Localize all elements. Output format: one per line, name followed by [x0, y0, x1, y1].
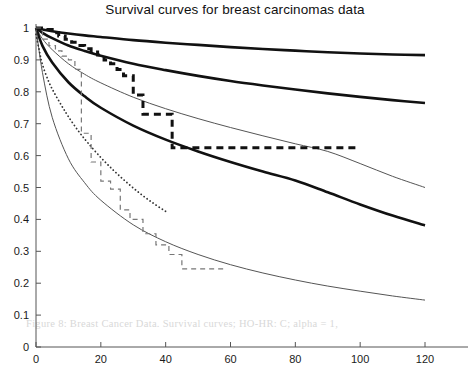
y-tick-label: 0.7: [14, 118, 29, 130]
axis-tick-labels: 00.10.20.30.40.50.60.70.80.9102040608010…: [14, 22, 434, 365]
y-tick-label: 0.8: [14, 86, 29, 98]
axes: [36, 24, 468, 347]
survival-curve-figure: Survival curves for breast carcinomas da…: [0, 0, 470, 367]
x-tick-label: 20: [95, 353, 107, 365]
x-tick-label: 60: [224, 353, 236, 365]
y-tick-label: 0.2: [14, 277, 29, 289]
model-curve-4: [36, 28, 425, 225]
plot-area: 00.10.20.30.40.50.60.70.80.9102040608010…: [0, 0, 470, 367]
data-curves: [36, 28, 425, 300]
y-tick-label: 0: [23, 341, 29, 353]
y-tick-label: 0.4: [14, 213, 29, 225]
y-tick-label: 0.3: [14, 245, 29, 257]
y-tick-label: 0.9: [14, 54, 29, 66]
x-tick-label: 40: [160, 353, 172, 365]
y-tick-label: 0.6: [14, 150, 29, 162]
y-tick-label: 0.5: [14, 182, 29, 194]
model-curve-3: [36, 28, 425, 188]
model-curve-2: [36, 28, 425, 103]
model-curve-5: [36, 28, 425, 300]
y-tick-label: 0.1: [14, 309, 29, 321]
x-tick-label: 120: [416, 353, 434, 365]
model-curve-1: [36, 28, 425, 55]
model-curve-dotted: [36, 34, 166, 211]
x-tick-label: 0: [33, 353, 39, 365]
y-tick-label: 1: [23, 22, 29, 34]
x-tick-label: 100: [351, 353, 369, 365]
x-tick-label: 80: [289, 353, 301, 365]
